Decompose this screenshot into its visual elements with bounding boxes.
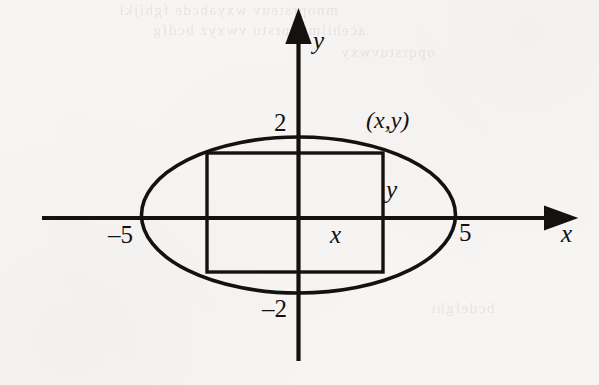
y-tick-label-negative-2: –2 xyxy=(262,296,287,321)
x-tick-label-5: 5 xyxy=(459,220,472,245)
y-axis-label: y xyxy=(313,28,324,53)
y-tick-label-2: 2 xyxy=(274,110,287,135)
figure-canvas xyxy=(0,0,599,385)
inscribed-rectangle xyxy=(207,153,383,272)
half-height-label: y xyxy=(386,177,397,202)
x-tick-label-negative-5: –5 xyxy=(108,222,133,247)
x-axis-label: x xyxy=(561,221,572,246)
vertex-point-label: (x,y) xyxy=(366,108,409,132)
figure-root: mnoprsteuv wxyabcde fghijkl acehilmnoprs… xyxy=(0,0,599,385)
half-width-label: x xyxy=(330,222,341,247)
